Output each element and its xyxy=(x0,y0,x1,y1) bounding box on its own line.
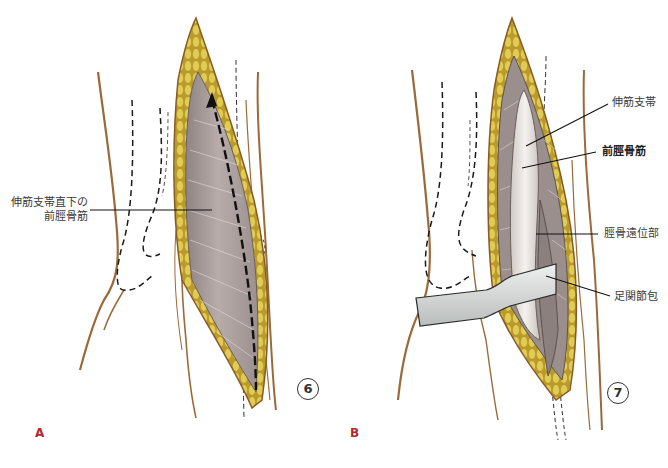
panel-a-drawing xyxy=(80,18,276,420)
illustration-canvas xyxy=(0,0,668,468)
panel-letter-b: B xyxy=(350,426,359,440)
label-b-ankle-capsule: 足関節包 xyxy=(614,290,658,304)
label-b-tibialis-anterior: 前脛骨筋 xyxy=(602,145,646,159)
panel-letter-a: A xyxy=(35,426,44,440)
label-b-distal-tibia: 脛骨遠位部 xyxy=(604,227,659,241)
panel-b-drawing xyxy=(398,18,602,440)
label-a-line2: 前脛骨筋 xyxy=(6,210,88,224)
figure-number-6: 6 xyxy=(297,378,319,400)
label-a-line1: 伸筋支帯直下の xyxy=(6,196,88,210)
figure: 伸筋支帯直下の 前脛骨筋 伸筋支帯 前脛骨筋 脛骨遠位部 足関節包 6 7 A … xyxy=(0,0,668,468)
label-b-extensor-retinaculum: 伸筋支帯 xyxy=(612,96,656,110)
label-a-tibialis-anterior-under-retinaculum: 伸筋支帯直下の 前脛骨筋 xyxy=(6,196,88,224)
figure-number-7: 7 xyxy=(607,382,629,404)
